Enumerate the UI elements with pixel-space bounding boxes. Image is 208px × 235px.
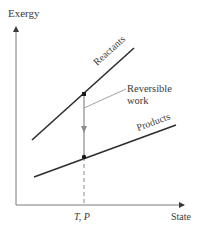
x-axis-label: State <box>171 211 192 222</box>
down-arrow-icon <box>81 126 87 133</box>
annotation-work: work <box>127 95 149 106</box>
x-tick-label: T, P <box>74 211 90 222</box>
exergy-diagram: Exergy State T, P Reactants Products Rev… <box>0 0 208 235</box>
annotation-leader <box>84 89 126 108</box>
products-label: Products <box>135 111 172 133</box>
reactants-point <box>82 92 86 96</box>
y-axis-label: Exergy <box>8 7 40 19</box>
products-point <box>82 155 86 159</box>
products-line <box>34 125 176 177</box>
reactants-label: Reactants <box>91 33 127 67</box>
annotation-reversible: Reversible <box>127 83 172 94</box>
